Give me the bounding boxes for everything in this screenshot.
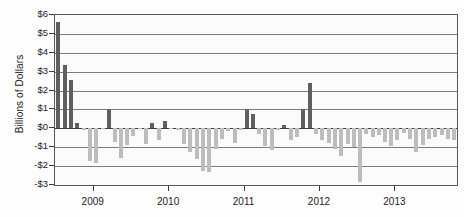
x-tick-mark: [319, 186, 320, 191]
bar: [308, 83, 312, 128]
bar: [94, 128, 98, 163]
bar: [371, 128, 375, 137]
bar: [421, 128, 425, 145]
bar: [56, 22, 60, 129]
bar: [214, 128, 218, 149]
gridline: [55, 147, 457, 148]
y-tick-label: $1: [14, 102, 48, 113]
gridline: [55, 53, 457, 54]
y-tick-label: $2: [14, 84, 48, 95]
bar: [263, 128, 267, 146]
gridline: [55, 166, 457, 167]
bar: [452, 128, 456, 139]
bar: [339, 128, 343, 155]
bar: [327, 128, 331, 143]
bar: [295, 128, 299, 137]
y-tick-label: $4: [14, 46, 48, 57]
bar-chart: Billions of Dollars $6$5$4$3$2$1$0-$1-$2…: [0, 0, 464, 217]
bar: [352, 128, 356, 147]
bar: [446, 128, 450, 138]
bar: [251, 114, 255, 128]
x-tick-label: 2011: [221, 196, 267, 207]
bar: [182, 128, 186, 144]
bar: [220, 128, 224, 138]
bar: [150, 123, 154, 129]
bar: [88, 128, 92, 161]
y-tick-label: $3: [14, 65, 48, 76]
bar: [75, 123, 79, 129]
bar: [402, 128, 406, 133]
bar: [176, 128, 180, 130]
bar: [440, 128, 444, 135]
gridline: [55, 34, 457, 35]
bar: [270, 128, 274, 150]
bar: [195, 128, 199, 158]
y-tick-label: $6: [14, 8, 48, 19]
bar: [395, 128, 399, 139]
y-tick-label: $0: [14, 121, 48, 132]
bar: [257, 128, 261, 134]
x-tick-mark: [244, 186, 245, 191]
bar: [320, 128, 324, 139]
bar: [282, 125, 286, 129]
x-tick-label: 2010: [145, 196, 191, 207]
bar: [101, 128, 105, 129]
x-tick-label: 2009: [70, 196, 116, 207]
y-tick-label: -$2: [14, 159, 48, 170]
bar: [289, 128, 293, 139]
bar: [163, 121, 167, 129]
bar: [383, 128, 387, 141]
bar: [239, 128, 243, 130]
bar: [144, 128, 148, 144]
bar: [301, 109, 305, 128]
bar: [69, 80, 73, 128]
gridline: [55, 72, 457, 73]
x-tick-mark: [168, 186, 169, 191]
plot-area: [54, 14, 458, 186]
bar: [63, 65, 67, 128]
x-tick-label: 2012: [296, 196, 342, 207]
bar: [107, 109, 111, 128]
bar: [138, 128, 142, 129]
bar: [414, 128, 418, 152]
bar: [169, 128, 173, 129]
bar: [276, 128, 280, 130]
bar: [125, 128, 129, 145]
bar: [233, 128, 237, 143]
bar: [377, 128, 381, 135]
bar: [427, 128, 431, 138]
gridline: [55, 109, 457, 110]
bar: [188, 128, 192, 152]
gridline: [55, 91, 457, 92]
bar: [358, 128, 362, 182]
bar: [408, 128, 412, 138]
y-tick-label: -$3: [14, 178, 48, 189]
x-tick-mark: [93, 186, 94, 191]
bar: [113, 128, 117, 141]
bar: [131, 128, 135, 136]
bar: [314, 128, 318, 134]
x-tick-mark: [394, 186, 395, 191]
bar: [119, 128, 123, 157]
bar: [433, 128, 437, 137]
bar: [333, 128, 337, 149]
bar: [346, 128, 350, 144]
bar: [389, 128, 393, 146]
y-tick-label: -$1: [14, 140, 48, 151]
bar: [157, 128, 161, 139]
bar: [226, 128, 230, 131]
bar: [207, 128, 211, 171]
bar: [82, 128, 86, 130]
bar: [245, 109, 249, 129]
bar: [201, 128, 205, 171]
x-tick-label: 2013: [371, 196, 417, 207]
bar: [364, 128, 368, 134]
y-tick-label: $5: [14, 27, 48, 38]
